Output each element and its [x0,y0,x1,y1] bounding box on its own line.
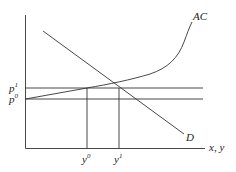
average-cost-curve [26,22,193,99]
p0-label: p0 [8,92,19,105]
y0-label: y0 [81,152,91,165]
diagram: AC D p1 p0 y0 y1 x, y [0,0,236,172]
ac-label: AC [192,10,208,22]
y1-label: y1 [113,152,122,165]
x-axis-label: x, y [208,141,224,153]
demand-curve [43,31,184,134]
diagram-canvas: AC D p1 p0 y0 y1 x, y [0,0,236,172]
d-label: D [185,131,194,143]
